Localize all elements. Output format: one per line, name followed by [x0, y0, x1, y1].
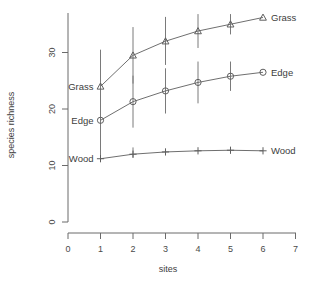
series-label-right-wood: Wood	[271, 145, 296, 156]
y-tick-label: 30	[47, 47, 57, 57]
y-tick-label: 10	[47, 160, 57, 170]
data-point-wood	[227, 147, 234, 154]
data-point-wood	[162, 148, 169, 155]
x-tick-label: 7	[293, 244, 298, 254]
series-label-left-grass: Grass	[68, 81, 94, 92]
x-tick-label: 3	[163, 244, 168, 254]
y-tick-label: 20	[47, 104, 57, 114]
x-tick-label: 4	[195, 244, 200, 254]
chart-canvas: 0102030 species richness 01234567 sites …	[0, 0, 317, 291]
x-tick-label: 5	[228, 244, 233, 254]
y-axis-title: species richness	[6, 91, 16, 158]
data-point-wood	[259, 147, 266, 154]
x-tick-label: 0	[65, 244, 70, 254]
series-label-left-wood: Wood	[69, 153, 94, 164]
x-tick-label: 6	[260, 244, 265, 254]
x-axis: 01234567 sites	[65, 233, 298, 274]
data-point-wood	[97, 155, 104, 162]
series-line-edge	[101, 72, 264, 120]
series-label-right-grass: Grass	[271, 12, 297, 23]
series-labels-group: GrassGrassEdgeEdgeWoodWood	[68, 12, 296, 164]
error-bars-group	[101, 14, 231, 159]
series-label-right-edge: Edge	[271, 67, 293, 78]
species-accumulation-chart: 0102030 species richness 01234567 sites …	[0, 0, 317, 291]
y-tick-label: 0	[47, 219, 57, 224]
x-axis-title: sites	[159, 264, 178, 274]
x-tick-group: 01234567	[65, 233, 298, 254]
x-tick-label: 1	[98, 244, 103, 254]
x-tick-label: 2	[130, 244, 135, 254]
data-point-wood	[129, 151, 136, 158]
series-label-left-edge: Edge	[71, 115, 93, 126]
series-line-wood	[101, 150, 264, 158]
data-point-wood	[194, 147, 201, 154]
y-tick-group: 0102030	[47, 47, 68, 224]
data-point-grass	[260, 14, 267, 20]
series-lines-group	[101, 17, 264, 158]
y-axis: 0102030 species richness	[6, 13, 68, 225]
series-line-grass	[101, 17, 264, 86]
